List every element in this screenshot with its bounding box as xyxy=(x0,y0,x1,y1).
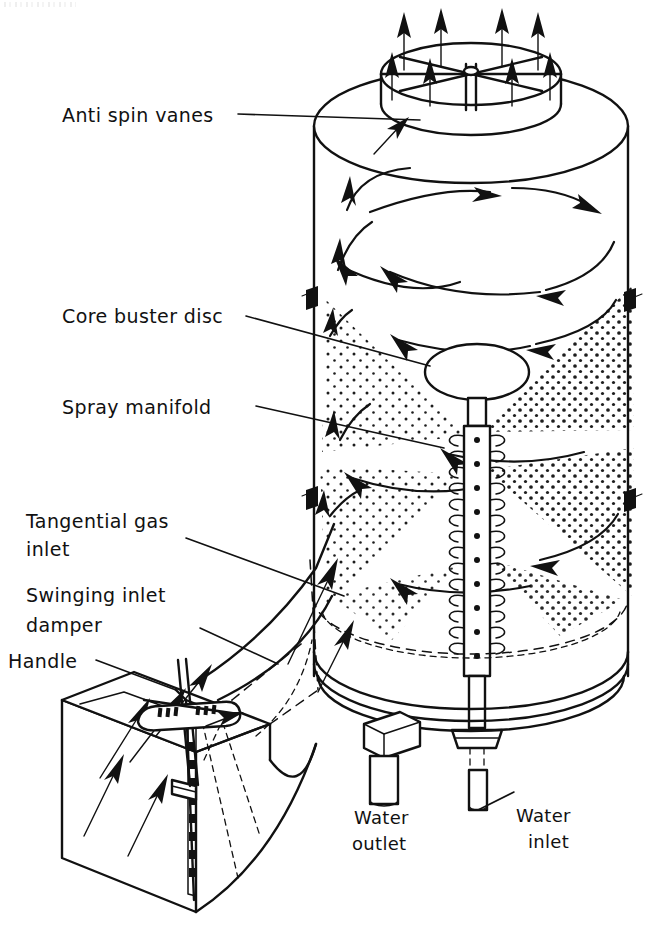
label-water-inlet-line2: inlet xyxy=(528,831,569,852)
label-water-outlet-line2: outlet xyxy=(352,833,406,854)
leader-tangential-gas-inlet xyxy=(186,538,344,596)
label-water-inlet-line1: Water xyxy=(516,805,571,826)
label-swinging-inlet-damper-line2: damper xyxy=(26,614,102,636)
label-core-buster-disc: Core buster disc xyxy=(62,305,223,327)
water-inlet xyxy=(469,748,487,810)
scrubber-diagram: Anti spin vanes Core buster disc Spray m… xyxy=(0,0,652,935)
label-tangential-gas-inlet-line2: inlet xyxy=(26,538,70,560)
label-spray-manifold: Spray manifold xyxy=(62,396,212,418)
label-tangential-gas-inlet-line1: Tangential gas xyxy=(25,510,169,532)
core-buster-disc xyxy=(425,344,529,400)
label-anti-spin-vanes: Anti spin vanes xyxy=(62,104,214,126)
spray-manifold xyxy=(449,398,504,748)
water-outlet xyxy=(364,712,420,806)
figure-root: Anti spin vanes Core buster disc Spray m… xyxy=(0,0,652,935)
label-swinging-inlet-damper-line1: Swinging inlet xyxy=(26,584,166,606)
label-handle: Handle xyxy=(8,650,77,672)
leader-swinging-inlet-damper xyxy=(200,628,278,664)
label-water-outlet-line1: Water xyxy=(354,807,409,828)
